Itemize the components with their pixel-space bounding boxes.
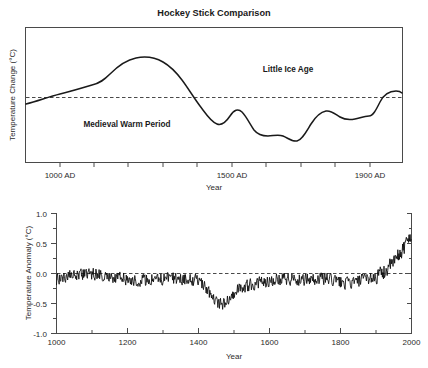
- hockey-stick-figure: Hockey Stick Comparison 1000 AD 1500 A: [0, 0, 428, 368]
- annotation-little-ice-age: Little Ice Age: [263, 65, 314, 74]
- top-xtick-label-1900: 1900 AD: [355, 171, 386, 180]
- bottom-xtick-label-1400: 1400: [190, 338, 208, 347]
- bottom-xtick-label-1000: 1000: [48, 338, 66, 347]
- annotation-medieval-warm-period: Medieval Warm Period: [83, 120, 170, 129]
- bottom-xtick-label-1200: 1200: [119, 338, 137, 347]
- bottom-ytick-label-neg1p0: -1.0: [33, 330, 47, 339]
- top-x-axis-label: Year: [206, 183, 223, 192]
- bottom-ytick-label-1p0: 1.0: [36, 210, 48, 219]
- bottom-xtick-label-1800: 1800: [332, 338, 350, 347]
- top-y-axis-label: Temperature Change (°C): [8, 49, 17, 141]
- page-title: Hockey Stick Comparison: [157, 8, 271, 18]
- bottom-y-axis-label: Temperature Anomaly (°C): [24, 225, 33, 320]
- bottom-xtick-label-2000: 2000: [403, 338, 421, 347]
- bottom-ytick-label-neg0p5: -0.5: [33, 300, 47, 309]
- bottom-x-axis-label: Year: [226, 352, 243, 361]
- bottom-ytick-label-0p0: 0.0: [36, 270, 48, 279]
- bottom-ytick-label-0p5: 0.5: [36, 240, 48, 249]
- top-xtick-label-1000: 1000 AD: [45, 171, 76, 180]
- top-xtick-label-1500: 1500 AD: [217, 171, 248, 180]
- figure-svg: Hockey Stick Comparison 1000 AD 1500 A: [0, 0, 428, 368]
- bottom-xtick-label-1600: 1600: [261, 338, 279, 347]
